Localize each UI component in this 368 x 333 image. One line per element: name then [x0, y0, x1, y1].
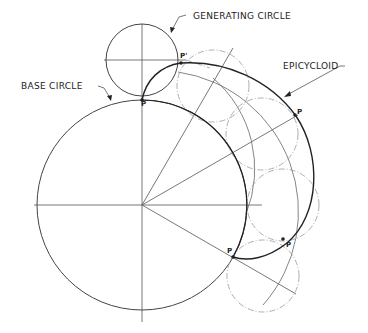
radial-line-30 — [142, 115, 298, 205]
point-p-prime — [179, 61, 183, 65]
base-circle-arrowhead — [107, 95, 112, 101]
epicycloid-label: EPICYCLOID — [283, 62, 339, 71]
point-label-p-right: P — [297, 109, 302, 116]
generating-circle-leader — [172, 15, 186, 30]
radial-line-minus30 — [142, 205, 296, 294]
point-label-p-prime: P' — [180, 53, 187, 60]
point-label-p-lower-right: P — [286, 242, 291, 249]
generating-circle-label: GENERATING CIRCLE — [193, 12, 291, 21]
epicycloid-arrowhead — [284, 91, 291, 97]
epicycloid-diagram — [0, 0, 368, 333]
radial-line-60 — [142, 48, 233, 205]
point-p-lower-right — [281, 237, 285, 241]
point-label-p-start: P — [141, 101, 146, 108]
point-label-p-lower: P — [227, 248, 232, 255]
generating-circle-arrowhead — [170, 27, 175, 33]
base-circle-label: BASE CIRCLE — [21, 82, 83, 91]
construction-circle-4 — [227, 240, 299, 312]
point-p-lower — [231, 255, 235, 259]
